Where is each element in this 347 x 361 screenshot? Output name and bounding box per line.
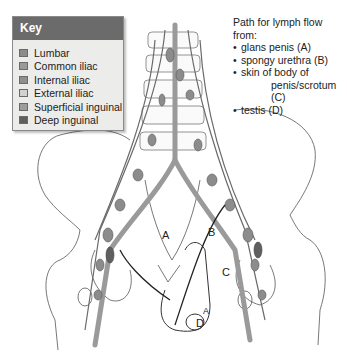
swatch-deep-inguinal bbox=[19, 116, 28, 124]
key-label: Lumbar bbox=[34, 47, 70, 59]
legend-item-skin-penis-scrotum: skin of body ofpenis/scrotum (C) bbox=[233, 66, 347, 104]
legend-list: glans penis (A) spongy urethra (B) skin … bbox=[233, 41, 347, 116]
key-title: Key bbox=[13, 17, 123, 40]
key-label: Superficial inguinal bbox=[34, 101, 122, 113]
legend-item-glans-penis: glans penis (A) bbox=[233, 41, 347, 54]
lymph-flow-legend: Path for lymph flow from: glans penis (A… bbox=[233, 16, 347, 116]
key-item-lumbar: Lumbar bbox=[19, 46, 123, 60]
key-label: Internal iliac bbox=[34, 74, 90, 86]
key-item-internal-iliac: Internal iliac bbox=[19, 73, 123, 87]
swatch-superficial-inguinal bbox=[19, 103, 28, 111]
key-item-external-iliac: External iliac bbox=[19, 87, 123, 101]
key-box: Key Lumbar Common iliac Internal iliac E… bbox=[12, 16, 124, 131]
key-list: Lumbar Common iliac Internal iliac Exter… bbox=[13, 40, 123, 127]
swatch-common-iliac bbox=[19, 62, 28, 70]
label-c: C bbox=[222, 266, 230, 278]
key-label: Common iliac bbox=[34, 60, 98, 72]
label-b: B bbox=[208, 226, 215, 238]
legend-title: Path for lymph flow from: bbox=[233, 16, 347, 41]
flow-arrows bbox=[120, 205, 225, 325]
swatch-external-iliac bbox=[19, 89, 28, 97]
label-a-small: A bbox=[203, 306, 209, 316]
swatch-lumbar bbox=[19, 49, 28, 57]
key-item-common-iliac: Common iliac bbox=[19, 60, 123, 74]
label-d: D bbox=[196, 317, 204, 329]
swatch-internal-iliac bbox=[19, 76, 28, 84]
label-a: A bbox=[162, 229, 170, 241]
key-label: External iliac bbox=[34, 87, 94, 99]
key-label: Deep inguinal bbox=[34, 114, 98, 126]
key-item-deep-inguinal: Deep inguinal bbox=[19, 114, 123, 128]
legend-item-spongy-urethra: spongy urethra (B) bbox=[233, 54, 347, 67]
key-item-superficial-inguinal: Superficial inguinal bbox=[19, 100, 123, 114]
legend-item-testis: testis (D) bbox=[233, 104, 347, 117]
